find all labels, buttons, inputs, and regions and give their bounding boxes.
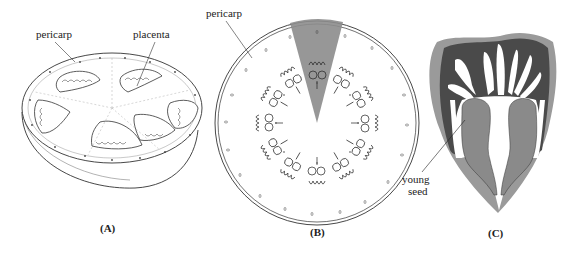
label-pericarp-b: pericarp [206,7,243,19]
panel-b: pericarp (B) [206,7,419,239]
label-young-seed-2: seed [408,185,428,197]
label-placenta: placenta [133,28,170,40]
caption-a: (A) [100,222,116,235]
caption-c: (C) [488,227,504,240]
label-young-seed-1: young [402,173,430,185]
panel-a: pericarp placenta (A) [22,28,202,235]
label-pericarp-a: pericarp [36,28,73,40]
tomato-fruit-diagram: pericarp placenta (A) [0,0,574,253]
caption-b: (B) [310,226,325,239]
panel-c: young seed (C) [402,33,556,240]
